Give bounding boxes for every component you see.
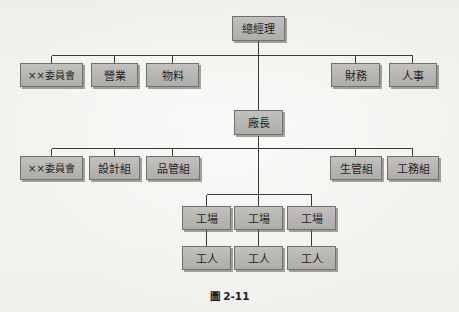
node-label-production-control-group: 生管組 [340,163,373,174]
node-engineering-group[interactable]: 工務組 [387,156,439,180]
node-label-personnel: 人事 [402,70,424,81]
node-label-worker-3: 工人 [301,253,323,264]
node-label-general-manager: 總經理 [242,24,275,35]
node-label-workshop-3: 工場 [301,213,323,224]
node-label-worker-1: 工人 [196,253,218,264]
node-label-committee-2: ××委員會 [28,164,75,174]
node-plant-manager[interactable]: 廠長 [234,110,283,135]
node-label-engineering-group: 工務組 [397,163,430,174]
org-chart-figure: 總經理 ××委員會 營業 物料 財務 人事 廠長 ××委員會 設計組 品管組 生… [0,0,459,312]
node-production-control-group[interactable]: 生管組 [330,156,382,180]
node-workshop-2[interactable]: 工場 [234,206,283,230]
node-workshop-3[interactable]: 工場 [287,206,336,230]
node-label-committee-1: ××委員會 [28,71,75,81]
node-design-group[interactable]: 設計組 [89,156,140,180]
node-label-quality-control-group: 品管組 [157,163,190,174]
node-materials[interactable]: 物料 [146,63,199,87]
node-worker-1[interactable]: 工人 [182,246,231,270]
figure-caption: 圖 2-11 [0,288,459,303]
node-label-finance: 財務 [345,70,367,81]
node-label-design-group: 設計組 [98,163,131,174]
node-personnel[interactable]: 人事 [389,63,437,87]
node-label-workshop-1: 工場 [196,213,218,224]
node-finance[interactable]: 財務 [331,63,380,87]
node-label-materials: 物料 [162,70,184,81]
node-workshop-1[interactable]: 工場 [182,206,231,230]
node-committee-1[interactable]: ××委員會 [20,63,83,87]
node-quality-control-group[interactable]: 品管組 [146,156,200,180]
node-worker-2[interactable]: 工人 [234,246,283,270]
node-label-worker-2: 工人 [248,253,270,264]
node-committee-2[interactable]: ××委員會 [20,156,83,180]
node-worker-3[interactable]: 工人 [287,246,336,270]
node-label-plant-manager: 廠長 [248,118,270,129]
node-label-sales: 營業 [104,70,126,81]
node-label-workshop-2: 工場 [248,213,270,224]
node-general-manager[interactable]: 總經理 [232,16,285,41]
node-sales[interactable]: 營業 [91,63,138,87]
